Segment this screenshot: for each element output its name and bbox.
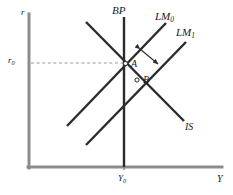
point-b-label: B bbox=[143, 75, 149, 85]
lm-shift-arrow bbox=[140, 49, 158, 64]
x-tick-label-y0: Y0 bbox=[118, 174, 126, 183]
lm0-label-base: LM bbox=[155, 10, 170, 22]
x-tick-label-subscript: 0 bbox=[123, 178, 126, 184]
diagram-canvas bbox=[0, 0, 233, 195]
y-tick-label-r0: r0 bbox=[8, 56, 15, 65]
lm1-curve-label: LM1 bbox=[176, 27, 195, 38]
is-curve bbox=[86, 22, 184, 121]
x-axis-label: Y bbox=[217, 174, 223, 184]
y-axis-label: r bbox=[21, 8, 25, 17]
point-b-marker bbox=[135, 78, 139, 82]
lm1-label-subscript: 1 bbox=[191, 31, 195, 40]
bp-curve-label: BP bbox=[112, 5, 125, 16]
is-lm-bp-figure: r r0 BP LM0 LM1 A B IS Y0 Y bbox=[0, 0, 233, 195]
point-a-label: A bbox=[131, 59, 137, 69]
point-a-marker bbox=[123, 61, 127, 65]
y-tick-label-base: r bbox=[8, 55, 12, 65]
y-tick-label-subscript: 0 bbox=[12, 60, 15, 66]
is-curve-label: IS bbox=[185, 122, 193, 132]
lm0-label-subscript: 0 bbox=[170, 15, 174, 24]
lm1-label-base: LM bbox=[176, 26, 191, 38]
lm0-curve bbox=[67, 23, 166, 126]
lm0-curve-label: LM0 bbox=[155, 11, 174, 22]
